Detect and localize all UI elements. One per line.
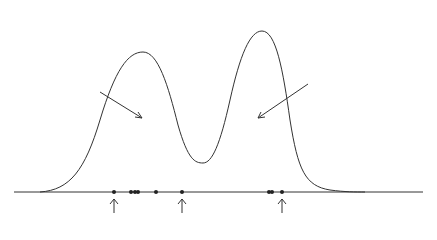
ideology-diagram: [0, 0, 437, 240]
diagram-graphics: [0, 0, 437, 240]
rep-label: [290, 54, 360, 67]
dem-label: [57, 65, 117, 78]
